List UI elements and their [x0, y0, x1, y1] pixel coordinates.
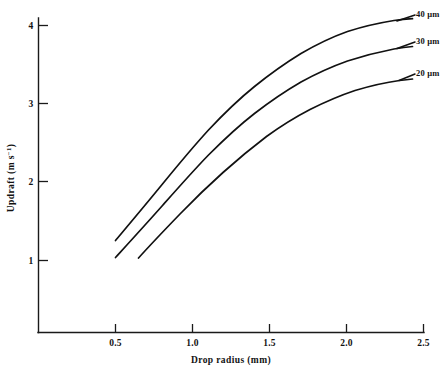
y-axis-title: Updraft (m s−1)	[5, 144, 18, 212]
svg-text:Updraft (m s−1): Updraft (m s−1)	[5, 144, 18, 212]
x-tick-label-1-0: 1.0	[186, 338, 199, 348]
x-axis-tick-labels: 0.5 1.0 1.5 2.0 2.5	[109, 338, 430, 348]
x-axis-title: Drop radius (mm)	[191, 355, 271, 366]
series-label-30um: 30 µm	[416, 36, 440, 46]
y-axis-title-exponent: −1	[5, 147, 12, 155]
y-axis-tick-labels: 4 3 2 1	[29, 21, 34, 266]
y-axis-ticks	[39, 26, 48, 261]
y-tick-label-1: 1	[29, 256, 34, 266]
y-axis-title-close: )	[6, 144, 17, 148]
y-tick-label-2: 2	[29, 177, 34, 187]
chart-figure: 4 3 2 1 0.5 1.0 1.5 2.0 2.5 Drop radius …	[0, 0, 445, 371]
y-axis-title-base: Updraft (m s	[6, 155, 17, 212]
series-label-20um: 20 µm	[416, 68, 440, 78]
y-tick-label-3: 3	[29, 99, 34, 109]
x-axis-ticks	[116, 324, 424, 332]
x-tick-label-2-0: 2.0	[340, 338, 353, 348]
series-curves	[116, 19, 413, 258]
axes-group	[38, 18, 424, 333]
updraft-vs-drop-radius-chart: 4 3 2 1 0.5 1.0 1.5 2.0 2.5 Drop radius …	[0, 0, 445, 371]
x-tick-label-2-5: 2.5	[417, 338, 430, 348]
series-line-20um	[139, 79, 413, 258]
y-tick-label-4: 4	[29, 21, 34, 31]
x-tick-label-0-5: 0.5	[109, 338, 122, 348]
series-labels: 40 µm 30 µm 20 µm	[416, 9, 440, 78]
series-label-40um: 40 µm	[416, 9, 440, 19]
x-tick-label-1-5: 1.5	[263, 338, 276, 348]
